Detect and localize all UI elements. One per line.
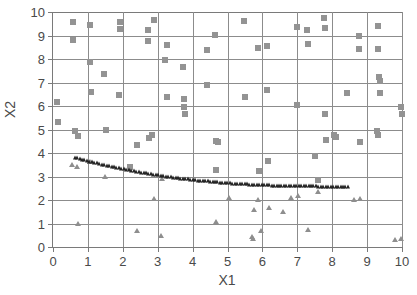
- gridline-vertical: [402, 12, 403, 247]
- y-axis-tick-label: 0: [38, 241, 45, 254]
- data-point-square: [149, 132, 155, 138]
- data-point-square: [242, 94, 248, 100]
- x-axis-tick-label: 6: [259, 255, 266, 268]
- data-point-square: [264, 43, 270, 49]
- x-axis-tick-label: 8: [329, 255, 336, 268]
- data-point-triangle: [74, 164, 80, 169]
- gridline-vertical: [297, 12, 298, 247]
- data-point-square: [399, 111, 405, 117]
- x-axis-title: X1: [52, 272, 402, 288]
- data-point-square: [162, 57, 168, 63]
- y-axis-tick-label: 10: [31, 6, 45, 19]
- data-point-square: [375, 23, 381, 29]
- data-point-triangle: [315, 189, 321, 194]
- x-axis-tick-label: 1: [84, 255, 91, 268]
- data-point-square: [398, 104, 404, 110]
- gridline-vertical: [193, 12, 194, 247]
- x-axis-tick: [123, 247, 124, 252]
- data-point-curve: [346, 184, 350, 188]
- data-point-square: [377, 78, 383, 84]
- data-point-square: [54, 99, 60, 105]
- data-point-square: [344, 90, 350, 96]
- y-axis-tick: [48, 106, 53, 107]
- data-point-square: [322, 25, 328, 31]
- data-point-square: [204, 82, 210, 88]
- data-point-square: [180, 64, 186, 70]
- x-axis-tick-label: 7: [294, 255, 301, 268]
- x-axis-tick-label: 0: [49, 255, 56, 268]
- data-point-square: [323, 137, 329, 143]
- data-point-square: [145, 38, 151, 44]
- data-point-square: [322, 111, 328, 117]
- data-point-square: [264, 87, 270, 93]
- data-point-square: [70, 19, 76, 25]
- data-point-triangle: [158, 233, 164, 238]
- data-point-triangle: [266, 205, 272, 210]
- data-point-triangle: [280, 209, 286, 214]
- data-point-square: [213, 167, 219, 173]
- data-point-triangle: [305, 227, 311, 232]
- gridline-vertical: [88, 12, 89, 247]
- data-point-triangle: [258, 228, 264, 233]
- data-point-square: [117, 19, 123, 25]
- data-point-square: [70, 37, 76, 43]
- y-axis-tick: [48, 153, 53, 154]
- y-axis-tick: [48, 59, 53, 60]
- y-axis-tick: [48, 12, 53, 13]
- y-axis-tick: [48, 130, 53, 131]
- y-axis-tick: [48, 36, 53, 37]
- data-point-triangle: [226, 195, 232, 200]
- data-point-square: [212, 32, 218, 38]
- data-point-square: [145, 27, 151, 33]
- x-axis-tick-label: 4: [189, 255, 196, 268]
- gridline-vertical: [123, 12, 124, 247]
- data-point-square: [164, 42, 170, 48]
- data-point-triangle: [251, 207, 257, 212]
- data-point-triangle: [398, 236, 404, 241]
- data-point-square: [375, 46, 381, 52]
- data-point-square: [55, 119, 61, 125]
- data-point-square: [255, 45, 261, 51]
- data-point-square: [321, 15, 327, 21]
- data-point-square: [256, 168, 262, 174]
- x-axis-tick: [158, 247, 159, 252]
- y-axis-tick-label: 2: [38, 194, 45, 207]
- data-point-square: [75, 133, 81, 139]
- data-point-square: [151, 17, 157, 23]
- x-axis-tick: [332, 247, 333, 252]
- data-point-square: [375, 132, 381, 138]
- data-point-triangle: [392, 237, 398, 242]
- y-axis-tick-label: 3: [38, 170, 45, 183]
- x-axis-tick-label: 10: [395, 255, 409, 268]
- y-axis-tick-label: 1: [38, 217, 45, 230]
- y-axis-tick-label: 4: [38, 147, 45, 160]
- data-point-square: [305, 41, 311, 47]
- data-point-square: [241, 18, 247, 24]
- data-point-square: [117, 26, 123, 32]
- data-point-square: [215, 139, 221, 145]
- x-axis-tick-label: 3: [154, 255, 161, 268]
- data-point-square: [304, 27, 310, 33]
- y-axis-tick-label: 7: [38, 76, 45, 89]
- gridline-vertical: [332, 12, 333, 247]
- x-axis-tick: [88, 247, 89, 252]
- data-point-square: [331, 132, 337, 138]
- scatter-chart: 012345678910012345678910 X1 X2: [0, 0, 417, 295]
- data-point-square: [315, 177, 321, 183]
- data-point-triangle: [250, 236, 256, 241]
- x-axis-tick: [297, 247, 298, 252]
- data-point-square: [88, 89, 94, 95]
- data-point-square: [87, 22, 93, 28]
- data-point-triangle: [288, 195, 294, 200]
- data-point-triangle: [351, 197, 357, 202]
- data-point-triangle: [213, 219, 219, 224]
- x-axis-tick: [367, 247, 368, 252]
- gridline-vertical: [367, 12, 368, 247]
- data-point-square: [356, 46, 362, 52]
- data-point-square: [204, 47, 210, 53]
- y-axis-tick-label: 9: [38, 29, 45, 42]
- x-axis-tick: [193, 247, 194, 252]
- data-point-square: [103, 127, 109, 133]
- y-axis-tick: [48, 177, 53, 178]
- data-point-triangle: [102, 174, 108, 179]
